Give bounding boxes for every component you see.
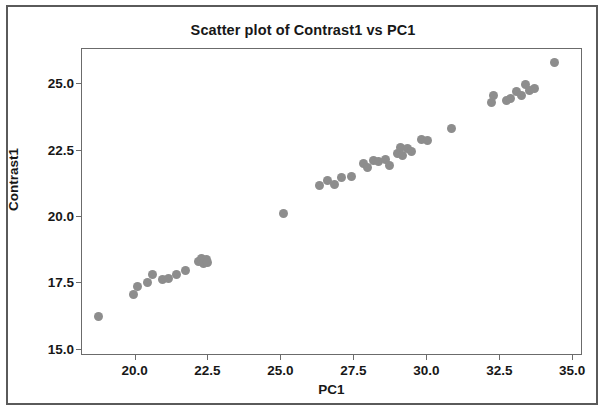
- scatter-point: [517, 91, 526, 100]
- x-axis-tick: [572, 354, 573, 360]
- scatter-point: [203, 258, 212, 267]
- y-axis-tick: [76, 282, 82, 283]
- y-axis-tick-label: 17.5: [48, 275, 74, 290]
- x-axis-tick-label: 32.5: [486, 363, 512, 378]
- x-axis-tick-label: 22.5: [194, 363, 220, 378]
- x-axis-tick-label: 27.5: [340, 363, 366, 378]
- y-axis-label: Contrast1: [6, 148, 21, 211]
- scatter-point: [164, 274, 173, 283]
- scatter-point: [489, 91, 498, 100]
- scatter-point: [148, 270, 157, 279]
- scatter-point: [347, 172, 356, 181]
- scatter-point: [94, 312, 103, 321]
- scatter-point: [337, 173, 346, 182]
- scatter-point: [330, 180, 339, 189]
- scatter-point: [550, 58, 559, 67]
- scatter-point: [133, 282, 142, 291]
- chart-title: Scatter plot of Contrast1 vs PC1: [0, 22, 606, 38]
- scatter-point: [172, 270, 181, 279]
- y-axis-tick: [76, 216, 82, 217]
- x-axis-tick: [280, 354, 281, 360]
- scatter-point: [279, 209, 288, 218]
- x-axis-tick: [207, 354, 208, 360]
- x-axis-tick: [426, 354, 427, 360]
- y-axis-tick-label: 22.5: [48, 142, 74, 157]
- x-axis-tick-label: 25.0: [267, 363, 293, 378]
- y-axis-tick: [76, 150, 82, 151]
- y-axis-tick-label: 20.0: [48, 209, 74, 224]
- plot-area: 15.017.520.022.525.020.022.525.027.530.0…: [81, 48, 582, 355]
- y-axis-tick-label: 25.0: [48, 76, 74, 91]
- x-axis-tick: [499, 354, 500, 360]
- scatter-point: [423, 136, 432, 145]
- x-axis-tick: [353, 354, 354, 360]
- x-axis-tick-label: 20.0: [121, 363, 147, 378]
- scatter-point: [407, 147, 416, 156]
- scatter-point: [129, 290, 138, 299]
- y-axis-tick-label: 15.0: [48, 341, 74, 356]
- x-axis-tick: [135, 354, 136, 360]
- x-axis-label: PC1: [81, 382, 582, 397]
- scatter-point: [385, 161, 394, 170]
- x-axis-tick-label: 30.0: [413, 363, 439, 378]
- x-axis-tick-label: 35.0: [559, 363, 585, 378]
- y-axis-tick: [76, 349, 82, 350]
- scatter-point: [181, 266, 190, 275]
- y-axis-tick: [76, 83, 82, 84]
- screenshot-page: Scatter plot of Contrast1 vs PC1 15.017.…: [0, 0, 606, 412]
- scatter-point: [447, 124, 456, 133]
- scatter-points-layer: [82, 49, 581, 354]
- scatter-point: [143, 278, 152, 287]
- scatter-point: [530, 84, 539, 93]
